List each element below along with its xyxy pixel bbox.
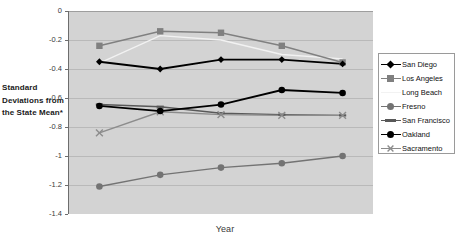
- data-point-marker: [96, 183, 103, 190]
- series-line-oakland: [99, 90, 342, 111]
- legend-item-label: Los Angeles: [402, 74, 443, 83]
- legend-item-label: San Francisco: [402, 116, 450, 125]
- data-point-marker: [157, 66, 164, 73]
- data-point-marker: [279, 87, 286, 94]
- data-point-marker: [279, 160, 286, 167]
- data-point-marker: [278, 56, 285, 63]
- data-point-marker: [96, 103, 103, 110]
- legend-item-san-francisco[interactable]: San Francisco: [380, 113, 454, 127]
- legend-marker-icon: [380, 86, 402, 98]
- legend-item-label: Fresno: [402, 102, 425, 111]
- plot-series-svg: [69, 11, 373, 214]
- legend-marker-icon: [380, 100, 402, 112]
- x-axis-title: Year: [180, 223, 270, 236]
- legend-item-fresno[interactable]: Fresno: [380, 99, 454, 113]
- line-chart: Standard Deviations from the State Mean*…: [0, 0, 457, 244]
- legend-marker-icon: [380, 114, 402, 126]
- data-point-marker: [218, 164, 225, 171]
- data-point-marker: [279, 43, 285, 49]
- y-axis-tick-mark: [65, 214, 68, 215]
- data-point-marker: [218, 101, 225, 108]
- legend-item-los-angeles[interactable]: Los Angeles: [380, 71, 454, 85]
- y-axis-tick: -0.4: [36, 65, 62, 73]
- legend-marker-icon: [380, 58, 402, 70]
- data-point-marker: [96, 43, 102, 49]
- y-axis-tick: -1.2: [36, 181, 62, 189]
- data-point-marker: [339, 153, 346, 160]
- legend-item-oakland[interactable]: Oakland: [380, 127, 454, 141]
- legend-marker-icon: [380, 128, 402, 140]
- data-point-marker: [157, 172, 164, 179]
- legend-item-label: San Diego: [402, 60, 437, 69]
- y-axis-tick: -0.8: [36, 123, 62, 131]
- data-point-marker: [157, 28, 163, 34]
- legend-item-san-diego[interactable]: San Diego: [380, 57, 454, 71]
- series-line-fresno: [99, 156, 342, 186]
- data-point-marker: [157, 108, 164, 115]
- legend-item-label: Oakland: [402, 130, 430, 139]
- data-point-marker: [96, 129, 103, 136]
- y-axis-tick: -1.4: [36, 210, 62, 218]
- plot-area: [68, 11, 373, 214]
- y-axis-tick: -0.6: [36, 94, 62, 102]
- legend-item-sacramento[interactable]: Sacramento: [380, 141, 454, 155]
- data-point-marker: [218, 56, 225, 63]
- data-point-marker: [157, 106, 164, 108]
- legend-marker-icon: [380, 72, 402, 84]
- legend: San DiegoLos AngelesLong BeachFresnoSan …: [378, 53, 455, 154]
- data-point-marker: [339, 90, 346, 97]
- legend-item-label: Sacramento: [402, 144, 442, 153]
- y-axis-tick: 0: [36, 7, 62, 15]
- data-point-marker: [96, 58, 103, 65]
- legend-item-label: Long Beach: [402, 88, 442, 97]
- data-point-marker: [218, 30, 224, 36]
- legend-item-long-beach[interactable]: Long Beach: [380, 85, 454, 99]
- y-axis-tick: -0.2: [36, 36, 62, 44]
- legend-marker-icon: [380, 142, 402, 154]
- y-axis-tick: -1: [36, 152, 62, 160]
